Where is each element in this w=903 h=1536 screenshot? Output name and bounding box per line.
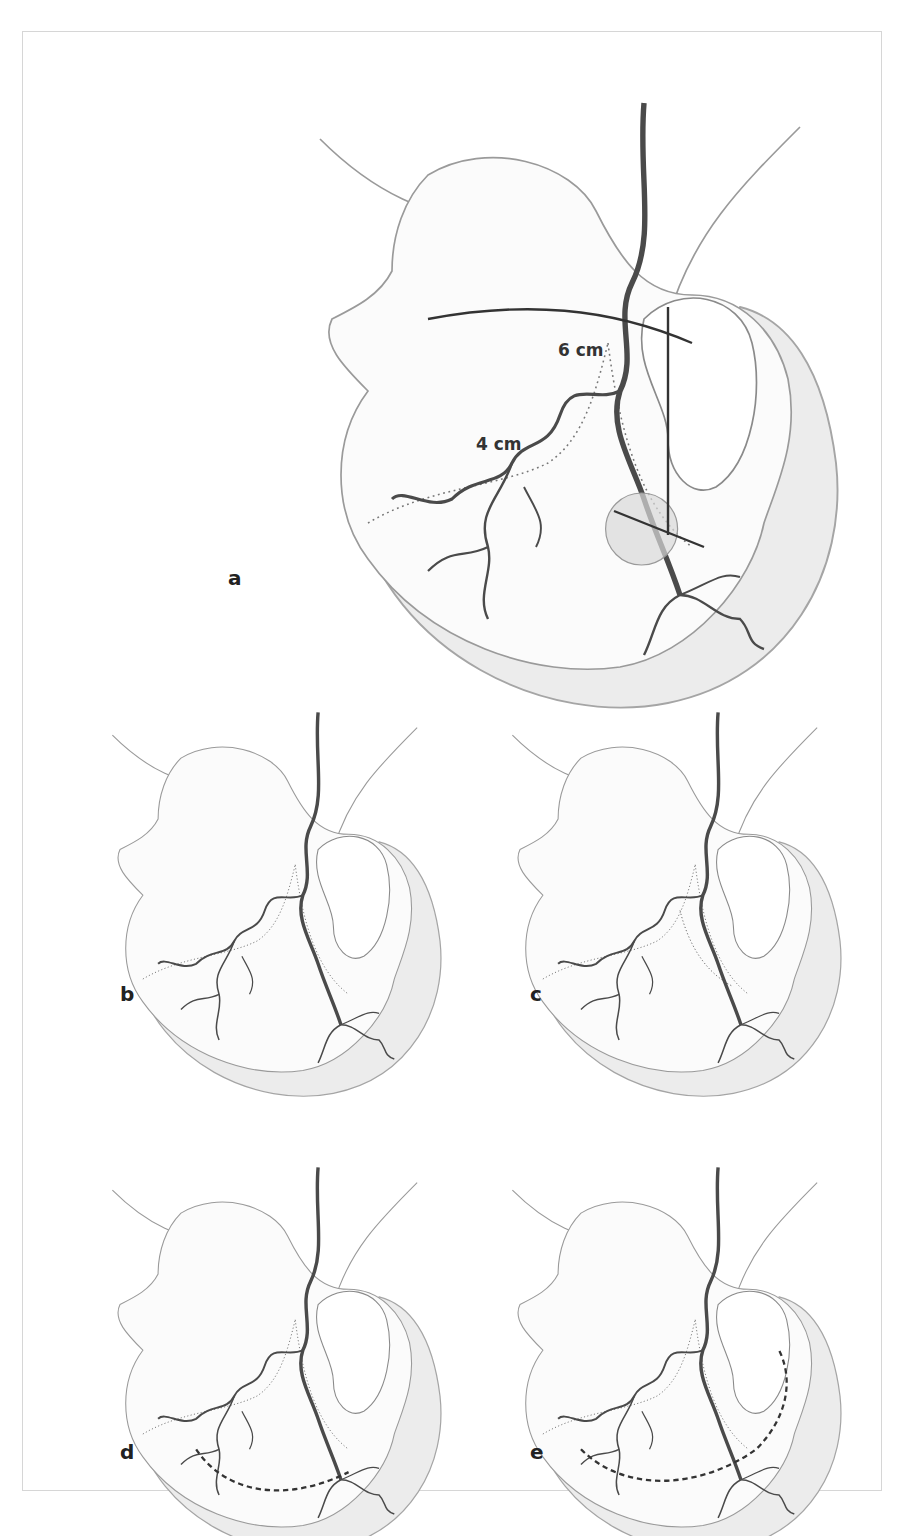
panel-label-e: e bbox=[530, 1440, 544, 1464]
panel-c bbox=[510, 720, 850, 1040]
scalp-diagram-e bbox=[510, 1175, 850, 1495]
panel-label-a: a bbox=[228, 566, 242, 590]
panel-label-d: d bbox=[120, 1440, 134, 1464]
measurement-4cm: 4 cm bbox=[476, 434, 522, 454]
scalp-diagram-c bbox=[510, 720, 850, 1040]
scalp-diagram-b bbox=[110, 720, 450, 1040]
panel-d bbox=[110, 1175, 450, 1495]
panel-label-c: c bbox=[530, 982, 542, 1006]
panel-b bbox=[110, 720, 450, 1040]
scalp-diagram-d bbox=[110, 1175, 450, 1495]
panel-e bbox=[510, 1175, 850, 1495]
panel-label-b: b bbox=[120, 982, 134, 1006]
measurement-6cm: 6 cm bbox=[558, 340, 604, 360]
